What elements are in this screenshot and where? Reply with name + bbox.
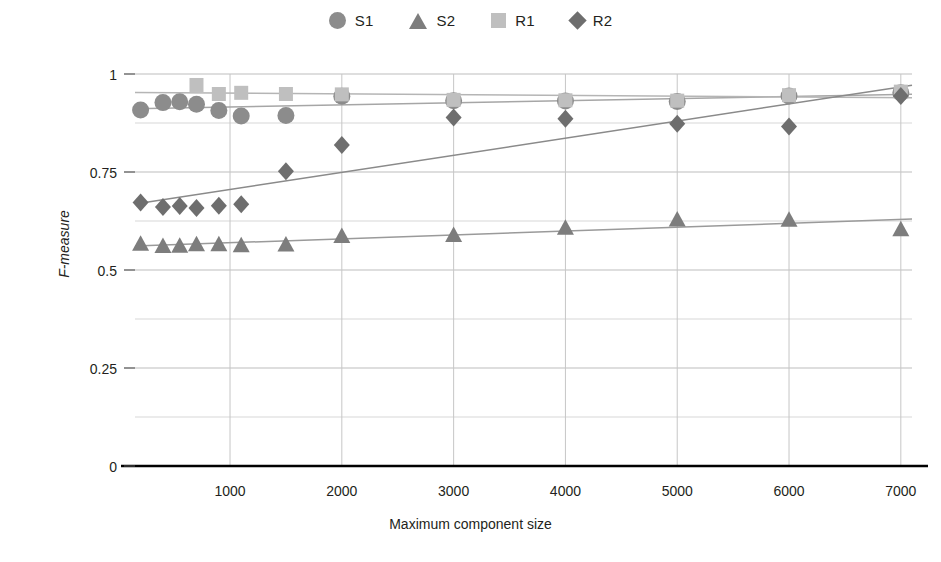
data-point-r2	[211, 197, 227, 215]
data-point-r1	[234, 86, 248, 100]
data-point-s2	[892, 221, 909, 237]
data-point-s1	[233, 107, 250, 124]
data-point-s1	[277, 107, 294, 124]
data-point-s1	[154, 94, 171, 111]
data-point-r1	[670, 94, 684, 108]
data-point-r2	[446, 109, 462, 127]
data-point-s2	[781, 211, 798, 227]
data-point-r2	[133, 194, 149, 212]
x-tick-label: 5000	[662, 483, 693, 499]
data-point-r2	[278, 162, 294, 180]
data-point-r2	[334, 136, 350, 154]
y-tick-label: 0.75	[90, 165, 117, 181]
data-point-s2	[669, 211, 686, 227]
data-point-s2	[277, 236, 294, 252]
data-point-s1	[132, 102, 149, 119]
x-tick-label: 6000	[773, 483, 804, 499]
data-point-s2	[132, 235, 149, 251]
data-point-r2	[188, 199, 204, 217]
data-point-r1	[212, 87, 226, 101]
data-point-r2	[233, 195, 249, 213]
data-point-r1	[782, 88, 796, 102]
plot-area: 00.250.50.751100020003000400050006000700…	[0, 0, 941, 562]
data-point-r2	[781, 118, 797, 136]
x-axis-title: Maximum component size	[0, 516, 941, 532]
x-tick-label: 2000	[326, 483, 357, 499]
data-point-s1	[188, 96, 205, 113]
data-point-s1	[210, 102, 227, 119]
series-r1	[189, 78, 907, 108]
y-tick-label: 0.5	[98, 263, 118, 279]
data-point-r1	[279, 87, 293, 101]
x-tick-label: 7000	[885, 483, 916, 499]
data-point-r1	[558, 93, 572, 107]
x-tick-label: 1000	[214, 483, 245, 499]
data-point-r1	[447, 93, 461, 107]
data-point-r1	[335, 87, 349, 101]
y-tick-label: 0	[109, 459, 117, 475]
data-point-r2	[669, 115, 685, 133]
y-axis-title: F-measure	[56, 174, 72, 314]
data-point-s2	[233, 237, 250, 253]
data-point-r2	[557, 110, 573, 128]
x-tick-label: 3000	[438, 483, 469, 499]
y-tick-label: 0.25	[90, 361, 117, 377]
data-point-r2	[172, 197, 188, 215]
chart-root: S1 S2 R1 R2 00.250.50.751100020003000400…	[0, 0, 941, 562]
x-tick-label: 4000	[550, 483, 581, 499]
data-point-s1	[171, 93, 188, 110]
data-point-r1	[189, 78, 203, 92]
y-tick-label: 1	[109, 67, 117, 83]
data-point-s2	[333, 227, 350, 243]
trendline-r2	[135, 85, 912, 204]
